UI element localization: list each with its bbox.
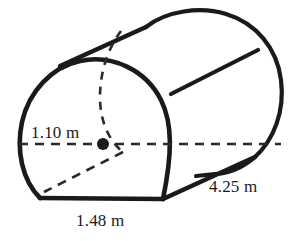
center-dot [97,138,109,150]
solid-figure-drawing [0,0,308,241]
hidden-inner-arc [100,31,123,152]
back-face-arc [146,10,282,174]
dimension-label-length: 4.25 m [209,178,257,195]
dimension-label-width: 1.48 m [76,212,124,229]
front-face-bottom-chord-width [40,198,163,199]
dimension-label-radius: 1.10 m [31,124,79,141]
side-seam-edge [171,50,258,94]
hidden-diagonal-edge [44,152,123,192]
geometry-figure: 1.10 m 1.48 m 4.25 m [0,0,308,241]
